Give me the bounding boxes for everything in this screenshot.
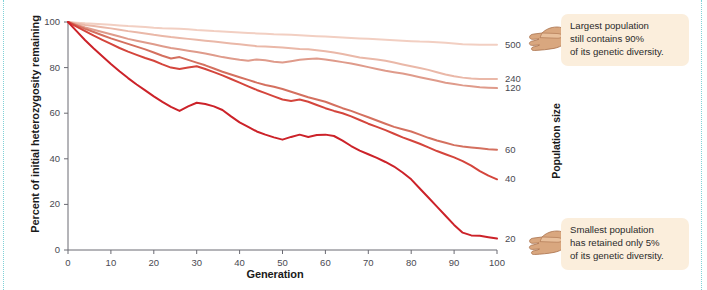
x-tick-label: 80 — [396, 257, 426, 268]
figure-container: Percent of initial heterozygosity remain… — [0, 0, 707, 290]
x-tick-label: 40 — [225, 257, 255, 268]
callout-top-line2: still contains 90% — [570, 33, 680, 46]
y-tick-label: 80 — [34, 62, 60, 73]
series-endpoint-label-500: 500 — [505, 39, 539, 50]
x-tick-label: 20 — [139, 257, 169, 268]
series-endpoint-label-20: 20 — [505, 233, 539, 244]
callout-smallest-population: Smallest population has retained only 5%… — [561, 218, 689, 270]
callout-bottom-line3: of its genetic diversity. — [570, 250, 680, 263]
x-tick-label: 60 — [310, 257, 340, 268]
callout-bottom-line1: Smallest population — [570, 224, 680, 237]
series-endpoint-label-40: 40 — [505, 173, 539, 184]
x-axis-title: Generation — [215, 268, 335, 280]
y-tick-label: 20 — [34, 198, 60, 209]
y-tick-label: 0 — [34, 244, 60, 255]
x-tick-label: 10 — [96, 257, 126, 268]
callout-bottom-line2: has retained only 5% — [570, 237, 680, 250]
y-tick-label: 100 — [34, 16, 60, 27]
x-tick-label: 90 — [439, 257, 469, 268]
series-endpoint-label-60: 60 — [505, 144, 539, 155]
y-tick-label: 60 — [34, 107, 60, 118]
y-tick-label: 40 — [34, 153, 60, 164]
callout-top-line1: Largest population — [570, 20, 680, 33]
x-tick-label: 30 — [182, 257, 212, 268]
callout-top-line3: of its genetic diversity. — [570, 46, 680, 59]
x-tick-label: 0 — [53, 257, 83, 268]
x-tick-label: 70 — [353, 257, 383, 268]
right-axis-title: Population size — [550, 81, 562, 201]
x-tick-label: 100 — [482, 257, 512, 268]
series-endpoint-label-120: 120 — [505, 82, 539, 93]
callout-largest-population: Largest population still contains 90% of… — [561, 14, 689, 66]
x-tick-label: 50 — [268, 257, 298, 268]
